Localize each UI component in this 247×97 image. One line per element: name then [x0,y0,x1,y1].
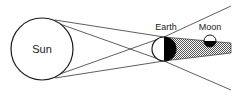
lunar-eclipse-diagram: Sun Earth Moon [0,0,247,97]
sun-label: Sun [32,43,52,55]
earth-label: Earth [155,22,177,32]
moon-label: Moon [199,22,222,32]
